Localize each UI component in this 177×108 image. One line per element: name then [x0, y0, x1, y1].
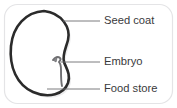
- label-food-store: Food store: [104, 82, 157, 94]
- label-embryo: Embryo: [104, 55, 143, 67]
- seed-diagram-screenshot: Seed coat Embryo Food store: [0, 0, 177, 108]
- seed-structure-diagram: Seed coat Embryo Food store: [0, 0, 177, 108]
- label-seed-coat: Seed coat: [104, 14, 155, 26]
